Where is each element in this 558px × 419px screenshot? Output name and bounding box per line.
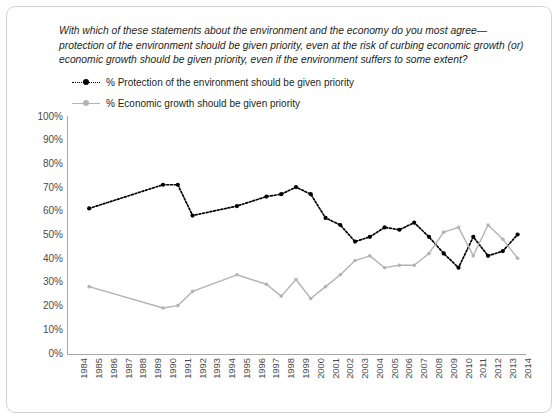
x-axis-tick-label: 1995	[241, 358, 252, 379]
data-point-marker	[471, 254, 475, 258]
x-axis-tick-label: 1998	[285, 358, 296, 379]
x-axis-tick-label: 1997	[270, 358, 281, 379]
x-axis-tick-label: 2009	[448, 358, 459, 379]
data-point-marker	[442, 230, 446, 234]
data-point-marker	[457, 226, 461, 230]
data-point-marker	[324, 285, 328, 289]
x-axis-tick-label: 2008	[433, 358, 444, 379]
y-axis-tick-label: 70%	[20, 182, 63, 193]
data-point-marker	[279, 294, 283, 298]
x-axis-tick-label: 2013	[507, 358, 518, 379]
x-axis-tick-label: 2014	[522, 358, 533, 379]
data-point-marker	[383, 225, 387, 229]
data-point-marker	[265, 282, 269, 286]
question-text: With which of these statements about the…	[59, 24, 532, 68]
data-point-marker	[161, 183, 165, 187]
legend-item-economy: % Economic growth should be given priori…	[72, 95, 472, 112]
x-axis-tick-label: 2012	[492, 358, 503, 379]
data-point-marker	[294, 278, 298, 282]
x-axis-tick-label: 2007	[418, 358, 429, 379]
data-point-marker	[368, 254, 372, 258]
y-axis-tick-label: 90%	[20, 134, 63, 145]
x-axis-tick-label: 1996	[256, 358, 267, 379]
data-point-marker	[87, 206, 91, 210]
data-point-marker	[501, 237, 505, 241]
data-point-marker	[353, 259, 357, 263]
data-point-marker	[398, 264, 402, 268]
data-point-marker	[264, 194, 268, 198]
data-point-marker	[294, 185, 298, 189]
series-line-environment	[89, 185, 517, 268]
data-point-marker	[176, 304, 180, 308]
x-axis-tick-label: 2004	[374, 358, 385, 379]
y-axis-tick-label: 100%	[20, 111, 63, 122]
x-axis-tick-label: 2002	[344, 358, 355, 379]
data-point-marker	[339, 273, 343, 277]
data-point-marker	[471, 235, 475, 239]
y-axis-tick-label: 50%	[20, 229, 63, 240]
legend-item-environment: % Protection of the environment should b…	[72, 74, 472, 91]
x-axis-tick-label: 2010	[463, 358, 474, 379]
data-point-marker	[397, 228, 401, 232]
y-axis-tick-label: 10%	[20, 324, 63, 335]
x-axis-tick-label: 1989	[152, 358, 163, 379]
data-point-marker	[368, 235, 372, 239]
x-axis-tick-label: 1994	[226, 358, 237, 379]
data-point-marker	[87, 285, 91, 289]
x-axis-tick-label: 1993	[211, 358, 222, 379]
x-axis-tick-label: 1991	[182, 358, 193, 379]
data-point-marker	[309, 297, 313, 301]
data-point-marker	[161, 306, 165, 310]
data-point-marker	[309, 192, 313, 196]
legend-swatch-solid-line-icon	[72, 99, 100, 109]
data-point-marker	[235, 273, 239, 277]
x-axis-tick-label: 2011	[477, 358, 488, 378]
x-axis-tick-labels: 1984198519861987198819891990199119921993…	[67, 356, 529, 414]
data-point-marker	[486, 223, 490, 227]
x-axis-tick-label: 1992	[197, 358, 208, 379]
series-canvas	[67, 116, 525, 353]
y-axis-tick-label: 0%	[20, 348, 63, 359]
x-axis-line	[67, 354, 526, 355]
series-line-economy	[89, 225, 517, 308]
y-axis-tick-label: 20%	[20, 300, 63, 311]
plot-area	[67, 116, 525, 353]
y-axis-tick-label: 30%	[20, 276, 63, 287]
data-point-marker	[190, 213, 194, 217]
data-point-marker	[323, 216, 327, 220]
y-axis-tick-labels: 100%90%80%70%60%50%40%30%20%10%0%	[20, 108, 63, 362]
data-point-marker	[427, 235, 431, 239]
data-point-marker	[412, 264, 416, 268]
x-axis-tick-label: 1999	[300, 358, 311, 379]
x-axis-tick-label: 1985	[93, 358, 104, 379]
x-axis-tick-label: 1986	[108, 358, 119, 379]
data-point-marker	[456, 266, 460, 270]
data-point-marker	[338, 223, 342, 227]
x-axis-tick-label: 2006	[403, 358, 414, 379]
x-axis-tick-label: 1984	[78, 358, 89, 379]
x-axis-tick-label: 1988	[137, 358, 148, 379]
data-point-marker	[516, 256, 520, 260]
data-point-marker	[516, 232, 520, 236]
legend-label-economy: % Economic growth should be given priori…	[106, 98, 300, 109]
y-axis-tick-label: 60%	[20, 205, 63, 216]
data-point-marker	[442, 251, 446, 255]
data-point-marker	[486, 254, 490, 258]
data-point-marker	[427, 252, 431, 256]
data-point-marker	[235, 204, 239, 208]
data-point-marker	[383, 266, 387, 270]
x-axis-tick-label: 2000	[315, 358, 326, 379]
x-axis-tick-label: 2001	[330, 358, 341, 379]
x-axis-tick-label: 2005	[389, 358, 400, 379]
x-axis-tick-label: 1987	[123, 358, 134, 379]
y-axis-tick-label: 80%	[20, 158, 63, 169]
data-point-marker	[353, 240, 357, 244]
y-axis-tick-label: 40%	[20, 253, 63, 264]
legend-label-environment: % Protection of the environment should b…	[106, 77, 354, 88]
data-point-marker	[412, 221, 416, 225]
chart-legend: % Protection of the environment should b…	[72, 74, 472, 116]
x-axis-tick-label: 2003	[359, 358, 370, 379]
data-point-marker	[176, 183, 180, 187]
x-axis-tick-label: 1990	[167, 358, 178, 379]
data-point-marker	[191, 290, 195, 294]
